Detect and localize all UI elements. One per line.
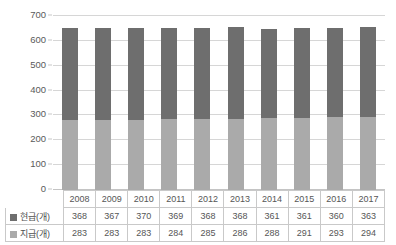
table-value-cell: 286 — [224, 225, 256, 242]
table-year-header: 2010 — [128, 191, 160, 208]
bar-slot — [219, 0, 252, 190]
stacked-column-chart-with-data-table: 7006005004003002001000 20082009201020112… — [0, 0, 396, 245]
bar-slot — [319, 0, 352, 190]
table-year-label: 2008 — [70, 194, 90, 204]
table-corner-cell — [6, 191, 64, 208]
table-value-cell: 363 — [352, 208, 384, 225]
table-value-cell: 369 — [160, 208, 192, 225]
table-year-label: 2017 — [358, 194, 378, 204]
stacked-bar[interactable] — [228, 0, 244, 190]
table-legend-cell: 지급(개) — [6, 225, 64, 242]
table-year-label: 2016 — [326, 194, 346, 204]
bar-segment-jigeup[interactable] — [261, 118, 277, 190]
table-value-cell: 361 — [288, 208, 320, 225]
table-year-header: 2011 — [160, 191, 192, 208]
stacked-bar[interactable] — [294, 0, 310, 190]
bar-segment-jigeup[interactable] — [228, 119, 244, 190]
table-year-label: 2013 — [230, 194, 250, 204]
bar-segment-jigeup[interactable] — [360, 117, 376, 190]
bar-segment-jigeup[interactable] — [128, 120, 144, 190]
legend-swatch-icon — [10, 214, 17, 221]
table-value-cell: 285 — [192, 225, 224, 242]
y-axis-tick-mark — [48, 39, 52, 40]
bar-segment-hyeongeup[interactable] — [360, 27, 376, 117]
y-axis-tick-mark — [48, 89, 52, 90]
bar-segment-jigeup[interactable] — [327, 117, 343, 190]
bar-segment-hyeongeup[interactable] — [194, 28, 210, 119]
stacked-bar[interactable] — [261, 0, 277, 190]
table-value-cell: 361 — [256, 208, 288, 225]
y-axis-tick-label: 700 — [30, 10, 46, 20]
bar-slot — [352, 0, 385, 190]
stacked-bar[interactable] — [95, 0, 111, 190]
table-year-label: 2011 — [166, 194, 185, 204]
bar-segment-hyeongeup[interactable] — [261, 29, 277, 119]
table-value-cell: 288 — [256, 225, 288, 242]
plot-area — [53, 0, 385, 190]
table-value-cell: 368 — [224, 208, 256, 225]
bar-slot — [53, 0, 86, 190]
y-axis-tick-mark — [48, 164, 52, 165]
y-axis-tick-mark — [48, 139, 52, 140]
bar-segment-hyeongeup[interactable] — [294, 28, 310, 118]
y-axis-tick-label: 500 — [30, 60, 46, 70]
table-year-header: 2017 — [352, 191, 384, 208]
table-value-cell: 360 — [320, 208, 352, 225]
bar-slot — [153, 0, 186, 190]
stacked-bar[interactable] — [327, 0, 343, 190]
bar-segment-hyeongeup[interactable] — [228, 27, 244, 118]
table-value-cell: 367 — [96, 208, 128, 225]
bar-slot — [186, 0, 219, 190]
y-axis-tick-label: 400 — [30, 85, 46, 95]
table-value-cell: 370 — [128, 208, 160, 225]
legend-swatch-icon — [10, 231, 17, 238]
table-value-cell: 294 — [352, 225, 384, 242]
y-axis: 7006005004003002001000 — [0, 0, 52, 190]
stacked-bar[interactable] — [62, 0, 78, 190]
table-header-row: 2008200920102011201220132014201520162017 — [6, 191, 385, 208]
table-year-header: 2014 — [256, 191, 288, 208]
table-year-label: 2012 — [198, 194, 218, 204]
y-axis-tick-mark — [48, 64, 52, 65]
table-series-row: 지급(개)283283283284285286288291293294 — [6, 225, 385, 242]
y-axis-tick-label: 600 — [30, 35, 46, 45]
table-legend-cell: 현급(개) — [6, 208, 64, 225]
bars-layer — [53, 0, 385, 190]
table-year-header: 2015 — [288, 191, 320, 208]
stacked-bar[interactable] — [360, 0, 376, 190]
bar-slot — [252, 0, 285, 190]
table-value-cell: 293 — [320, 225, 352, 242]
bar-segment-jigeup[interactable] — [161, 119, 177, 190]
y-axis-tick-label: 200 — [30, 135, 46, 145]
table-year-header: 2012 — [192, 191, 224, 208]
y-axis-tick-mark — [48, 114, 52, 115]
bar-segment-hyeongeup[interactable] — [161, 28, 177, 120]
bar-slot — [285, 0, 318, 190]
bar-segment-jigeup[interactable] — [294, 118, 310, 190]
table-value-cell: 283 — [64, 225, 96, 242]
bar-segment-hyeongeup[interactable] — [62, 28, 78, 119]
bar-segment-hyeongeup[interactable] — [327, 28, 343, 117]
stacked-bar[interactable] — [128, 0, 144, 190]
bar-segment-jigeup[interactable] — [62, 120, 78, 190]
stacked-bar[interactable] — [194, 0, 210, 190]
table-value-cell: 368 — [64, 208, 96, 225]
table-year-header: 2009 — [96, 191, 128, 208]
plot-region: 7006005004003002001000 — [0, 0, 396, 190]
bar-segment-hyeongeup[interactable] — [128, 28, 144, 120]
stacked-bar[interactable] — [161, 0, 177, 190]
table-year-label: 2010 — [134, 194, 154, 204]
bar-segment-hyeongeup[interactable] — [95, 28, 111, 119]
bar-segment-jigeup[interactable] — [95, 120, 111, 190]
y-axis-tick-mark — [48, 15, 52, 16]
bar-segment-jigeup[interactable] — [194, 119, 210, 190]
table-year-label: 2015 — [294, 194, 314, 204]
table-value-cell: 284 — [160, 225, 192, 242]
table-year-header: 2013 — [224, 191, 256, 208]
table-series-row: 현급(개)368367370369368368361361360363 — [6, 208, 385, 225]
table-year-label: 2014 — [262, 194, 282, 204]
y-axis-tick-label: 100 — [30, 159, 46, 169]
data-table-body: 2008200920102011201220132014201520162017… — [6, 191, 385, 242]
bar-slot — [119, 0, 152, 190]
table-year-header: 2008 — [64, 191, 96, 208]
